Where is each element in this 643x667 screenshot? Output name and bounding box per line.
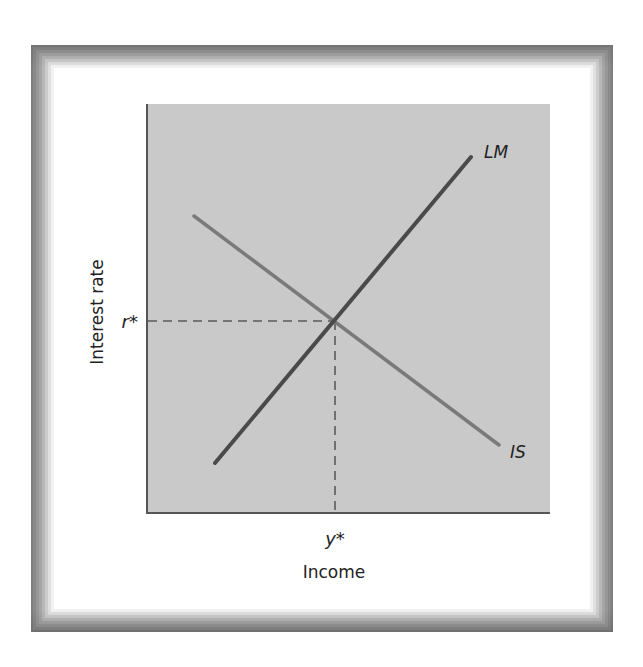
y-axis-title: Interest rate [87,259,107,364]
y-star-label: y* [324,528,345,549]
r-star-label: r* [122,311,138,332]
is-lm-diagram: LM IS r* y* Income Interest rate [0,0,643,667]
plot-area [146,104,550,514]
lm-label: LM [484,142,508,162]
is-label: IS [510,442,526,462]
x-axis-title: Income [303,562,366,582]
